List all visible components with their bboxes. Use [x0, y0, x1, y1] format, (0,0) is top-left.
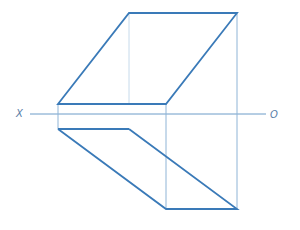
diagram-svg — [0, 0, 300, 230]
axis-label-o: O — [270, 110, 278, 120]
projection-diagram: X O — [0, 0, 300, 230]
axis-label-x: X — [16, 109, 23, 119]
top-view-outline — [58, 13, 237, 104]
front-view-outline — [58, 129, 237, 209]
